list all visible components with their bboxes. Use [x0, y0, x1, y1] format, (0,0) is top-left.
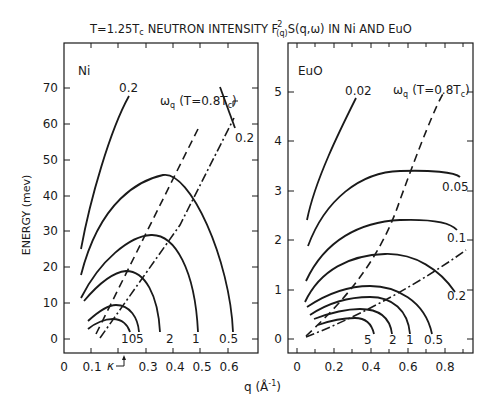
svg-text:0.3: 0.3 [138, 360, 157, 374]
euo-label-0.1: 0.1 [447, 231, 466, 245]
ni-omega-label: ωq(T=0.8Tc) [160, 94, 237, 110]
euo-label-1: 1 [406, 333, 414, 347]
ni-y-axis-label: ENERGY (mev) [20, 175, 33, 256]
svg-text:60: 60 [43, 117, 58, 131]
euo-top-ticks [297, 43, 463, 48]
euo-label-0.02: 0.02 [345, 84, 372, 98]
svg-text:κ: κ [107, 359, 115, 373]
ni-contours [81, 96, 233, 332]
euo-y-tick-labels: 0 1 2 3 4 5 [274, 85, 282, 346]
euo-label-0.05: 0.05 [442, 180, 469, 194]
euo-panel: 0 1 2 3 4 5 0 0.2 0.4 0.6 0.8 EuO [274, 43, 473, 374]
euo-label-0.2: 0.2 [447, 289, 466, 303]
ni-left-ticks [64, 88, 70, 339]
euo-bottom-ticks [297, 348, 463, 353]
ni-bottom-ticks [91, 348, 228, 353]
svg-text:0.4: 0.4 [165, 360, 184, 374]
svg-text:3: 3 [274, 184, 282, 198]
svg-text:70: 70 [43, 81, 58, 95]
svg-text:5: 5 [274, 85, 282, 99]
ni-label-0.5: 0.5 [219, 332, 238, 346]
ni-omega-q-line [96, 129, 198, 334]
euo-omega-q-line [306, 92, 444, 336]
svg-text:0.5: 0.5 [192, 360, 211, 374]
euo-label-5: 5 [364, 333, 372, 347]
euo-contour-2 [314, 309, 392, 334]
ni-panel: 0 10 20 30 40 50 60 70 0 0.1 0.3 0.4 0.5… [20, 43, 258, 374]
euo-contour-0.02 [307, 98, 356, 220]
euo-contour-5 [318, 318, 374, 334]
euo-label-0.5: 0.5 [424, 333, 443, 347]
ni-contour-0.2 [81, 96, 129, 249]
ni-label-10: 10 [121, 332, 136, 346]
euo-right-ticks [467, 92, 473, 339]
ni-x-tick-labels: 0 0.1 0.3 0.4 0.5 0.6 [60, 360, 238, 374]
ni-top-ticks [91, 43, 228, 48]
ni-label-1: 1 [192, 332, 200, 346]
ni-right-ticks [252, 88, 258, 339]
euo-left-ticks [288, 92, 294, 339]
ni-panel-label: Ni [78, 64, 90, 78]
euo-contour-0.05 [308, 171, 460, 246]
svg-text:1: 1 [274, 283, 282, 297]
svg-text:20: 20 [43, 260, 58, 274]
ni-label-5: 5 [136, 332, 144, 346]
figure-title: T=1.25TcNEUTRON INTENSITY F2(q)S(q,ω) IN… [89, 20, 412, 38]
svg-text:10: 10 [43, 296, 58, 310]
svg-text:0.8: 0.8 [435, 360, 454, 374]
euo-label-2: 2 [389, 333, 397, 347]
svg-text:2: 2 [274, 233, 282, 247]
svg-text:0.6: 0.6 [398, 360, 417, 374]
svg-text:0: 0 [274, 332, 282, 346]
svg-text:30: 30 [43, 224, 58, 238]
figure: T=1.25TcNEUTRON INTENSITY F2(q)S(q,ω) IN… [0, 0, 498, 397]
ni-gamma-label: 0.2 [235, 131, 254, 145]
ni-label-0.2: 0.2 [119, 81, 138, 95]
kappa-marker: κ [107, 355, 126, 373]
euo-omega-label: ωq(T=0.8Tc) [393, 83, 470, 99]
svg-text:50: 50 [43, 153, 58, 167]
ni-contour-1 [81, 235, 198, 332]
euo-x-tick-labels: 0 0.2 0.4 0.6 0.8 [293, 360, 454, 374]
ni-y-tick-labels: 0 10 20 30 40 50 60 70 [43, 81, 58, 346]
ni-contour-10 [88, 319, 130, 332]
x-axis-label: q (Å-1) [244, 379, 281, 394]
euo-contours [305, 98, 460, 334]
svg-text:0.6: 0.6 [219, 360, 238, 374]
ni-label-2: 2 [166, 332, 174, 346]
euo-panel-label: EuO [298, 64, 323, 78]
svg-text:40: 40 [43, 189, 58, 203]
svg-text:0.1: 0.1 [82, 360, 101, 374]
svg-text:0.2: 0.2 [324, 360, 343, 374]
svg-text:4: 4 [274, 134, 282, 148]
svg-text:0: 0 [50, 332, 58, 346]
svg-text:0: 0 [293, 360, 301, 374]
svg-text:0.4: 0.4 [361, 360, 380, 374]
svg-text:0: 0 [60, 360, 68, 374]
